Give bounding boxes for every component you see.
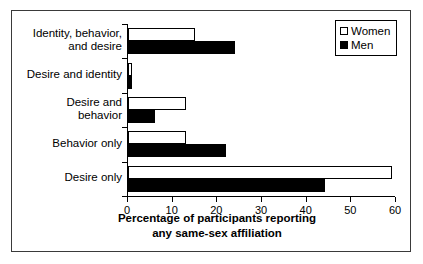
y-axis-label-line: Behavior only <box>10 137 122 151</box>
x-axis-tick-10 <box>172 197 173 202</box>
y-axis-tick-2 <box>122 93 128 94</box>
y-axis-category-labels: Identity, behavior,and desireDesire and … <box>12 24 122 196</box>
bar-women-2 <box>128 97 186 110</box>
x-axis-tick-50 <box>350 197 351 202</box>
bar-men-3 <box>128 144 226 157</box>
bar-women-4 <box>128 166 392 179</box>
legend-label: Men <box>351 38 373 52</box>
y-axis-label-3: Behavior only <box>10 137 122 151</box>
y-axis-tick-3 <box>122 127 128 128</box>
bar-women-1 <box>128 63 132 76</box>
legend-swatch-women-icon <box>340 27 348 35</box>
y-axis-label-line: behavior <box>10 109 122 123</box>
bar-men-4 <box>128 179 325 192</box>
bar-women-3 <box>128 131 186 144</box>
bar-men-1 <box>128 76 132 89</box>
chart-legend: WomenMen <box>335 20 397 56</box>
y-axis-label-2: Desire andbehavior <box>10 96 122 123</box>
y-axis-label-line: Desire and <box>10 96 122 110</box>
x-axis-tick-30 <box>261 197 262 202</box>
legend-label: Women <box>351 24 390 38</box>
y-axis-label-line: and desire <box>10 40 122 54</box>
y-axis-tick-0 <box>122 24 128 25</box>
x-axis-title-line-2: any same-sex affiliation <box>52 226 382 241</box>
y-axis-tick-4 <box>122 162 128 163</box>
y-axis-label-line: Identity, behavior, <box>10 27 122 41</box>
legend-item-men: Men <box>340 38 390 52</box>
x-axis-tick-40 <box>306 197 307 202</box>
bar-men-2 <box>128 110 155 123</box>
y-axis-label-0: Identity, behavior,and desire <box>10 27 122 54</box>
x-axis-tick-0 <box>127 197 128 202</box>
x-axis-tick-20 <box>216 197 217 202</box>
x-axis-title-line-1: Percentage of participants reporting <box>52 211 382 226</box>
legend-item-women: Women <box>340 24 390 38</box>
x-axis-title: Percentage of participants reporting any… <box>52 211 382 241</box>
x-axis-tick-label-60: 60 <box>380 204 410 217</box>
y-axis-label-line: Desire and identity <box>10 68 122 82</box>
y-axis-label-1: Desire and identity <box>10 68 122 82</box>
x-axis-tick-60 <box>395 197 396 202</box>
y-axis-label-line: Desire only <box>10 171 122 185</box>
bar-women-0 <box>128 28 195 41</box>
y-axis-tick-1 <box>122 58 128 59</box>
bar-men-0 <box>128 41 235 54</box>
y-axis-label-4: Desire only <box>10 171 122 185</box>
chart-figure: Identity, behavior,and desireDesire and … <box>11 10 411 252</box>
legend-swatch-men-icon <box>340 41 348 49</box>
